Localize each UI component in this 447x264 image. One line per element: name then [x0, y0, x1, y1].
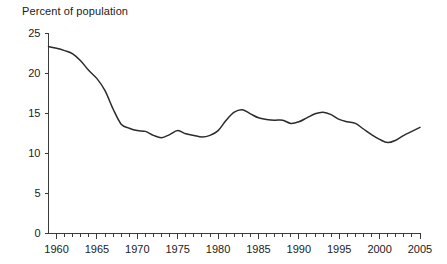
x-tick-label: 1995: [327, 243, 351, 255]
y-axis-tick-group: 0510152025: [28, 27, 48, 239]
line-chart-plot: 0510152025 19601965197019751980198519901…: [0, 0, 447, 264]
x-tick-label: 1985: [246, 243, 270, 255]
x-tick-label: 1980: [206, 243, 230, 255]
x-tick-label: 1970: [125, 243, 149, 255]
y-tick-label: 20: [28, 67, 40, 79]
x-tick-label: 1960: [44, 243, 68, 255]
y-tick-label: 5: [34, 187, 40, 199]
x-tick-label: 1990: [287, 243, 311, 255]
x-axis-tick-group: 1960196519701975198019851990199520002005: [44, 243, 432, 255]
y-tick-label: 15: [28, 107, 40, 119]
y-tick-label: 0: [34, 227, 40, 239]
data-series-line: [49, 47, 421, 143]
x-tick-label: 2000: [367, 243, 391, 255]
y-tick-label: 10: [28, 147, 40, 159]
x-tick-label: 1965: [85, 243, 109, 255]
x-tick-label: 2005: [408, 243, 432, 255]
x-tick-label: 1975: [165, 243, 189, 255]
chart-container: Percent of population 0510152025 1960196…: [0, 0, 447, 264]
y-tick-label: 25: [28, 27, 40, 39]
